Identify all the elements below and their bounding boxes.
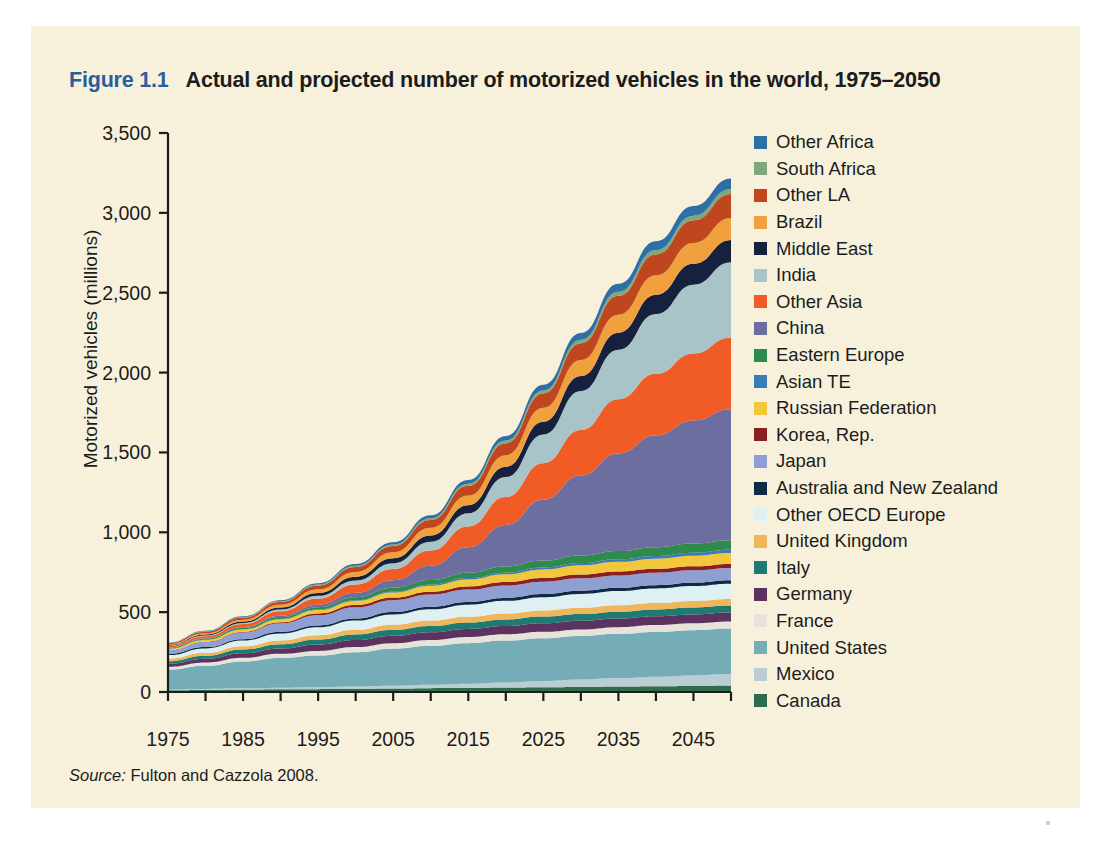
legend-item-label: Italy (776, 557, 810, 579)
figure-card: Figure 1.1Actual and projected number of… (31, 26, 1080, 808)
source-text: Fulton and Cazzola 2008. (130, 766, 318, 784)
y-tick-label: 0 (79, 681, 151, 704)
legend-item-label: Brazil (776, 211, 822, 233)
legend-color-swatch (754, 189, 767, 202)
legend-item[interactable]: Australia and New Zealand (754, 475, 1064, 502)
legend-item[interactable]: India (754, 262, 1064, 289)
legend-item[interactable]: France (754, 608, 1064, 635)
legend-item[interactable]: Canada (754, 687, 1064, 714)
legend-item-label: Mexico (776, 663, 835, 685)
x-tick-label: 2025 (503, 728, 583, 751)
legend-item[interactable]: Other LA (754, 182, 1064, 209)
legend-item[interactable]: Middle East (754, 235, 1064, 262)
legend-item-label: Germany (776, 583, 852, 605)
legend-item[interactable]: Other Africa (754, 129, 1064, 156)
legend-color-swatch (754, 668, 767, 681)
legend-color-swatch (754, 641, 767, 654)
legend-color-swatch (754, 508, 767, 521)
legend-color-swatch (754, 402, 767, 415)
legend-item-label: United Kingdom (776, 530, 908, 552)
legend-color-swatch (754, 455, 767, 468)
legend-item-label: Korea, Rep. (776, 424, 875, 446)
legend-color-swatch (754, 136, 767, 149)
source-label: Source: (69, 766, 126, 784)
legend-item[interactable]: United Kingdom (754, 528, 1064, 555)
legend-color-swatch (754, 216, 767, 229)
legend-item-label: Australia and New Zealand (776, 477, 998, 499)
legend-item-label: Canada (776, 690, 841, 712)
legend-item[interactable]: Japan (754, 448, 1064, 475)
legend-color-swatch (754, 482, 767, 495)
legend-item[interactable]: Other Asia (754, 289, 1064, 316)
legend-item-label: United States (776, 637, 887, 659)
y-axis-ticks: 05001,0001,5002,0002,5003,0003,500 (79, 26, 151, 808)
legend-color-swatch (754, 694, 767, 707)
legend-item-label: China (776, 317, 824, 339)
legend-item[interactable]: Italy (754, 555, 1064, 582)
legend-item[interactable]: United States (754, 634, 1064, 661)
y-tick-label: 1,000 (79, 521, 151, 544)
legend-item[interactable]: China (754, 315, 1064, 342)
legend-color-swatch (754, 162, 767, 175)
y-tick-label: 3,000 (79, 202, 151, 225)
chart-legend: Other AfricaSouth AfricaOther LABrazilMi… (754, 129, 1064, 714)
x-tick-label: 2045 (653, 728, 733, 751)
legend-item[interactable]: Other OECD Europe (754, 501, 1064, 528)
x-tick-label: 1985 (203, 728, 283, 751)
legend-color-swatch (754, 428, 767, 441)
legend-item-label: Other Africa (776, 131, 874, 153)
y-tick-label: 2,500 (79, 282, 151, 305)
legend-item-label: France (776, 610, 834, 632)
legend-color-swatch (754, 322, 767, 335)
x-tick-label: 1975 (128, 728, 208, 751)
y-tick-label: 500 (79, 601, 151, 624)
legend-item-label: Middle East (776, 238, 873, 260)
y-tick-label: 1,500 (79, 441, 151, 464)
paper-speck (1046, 821, 1050, 825)
legend-item-label: Other OECD Europe (776, 504, 946, 526)
legend-item-label: Asian TE (776, 371, 851, 393)
legend-item-label: Japan (776, 450, 826, 472)
legend-color-swatch (754, 614, 767, 627)
legend-color-swatch (754, 269, 767, 282)
legend-color-swatch (754, 242, 767, 255)
legend-item[interactable]: Asian TE (754, 368, 1064, 395)
legend-item-label: Russian Federation (776, 397, 936, 419)
x-tick-label: 2035 (578, 728, 658, 751)
legend-item[interactable]: Brazil (754, 209, 1064, 236)
legend-item-label: India (776, 264, 816, 286)
x-tick-label: 2005 (353, 728, 433, 751)
legend-item[interactable]: Korea, Rep. (754, 422, 1064, 449)
legend-item[interactable]: Russian Federation (754, 395, 1064, 422)
legend-item-label: Other LA (776, 184, 850, 206)
legend-item-label: South Africa (776, 158, 876, 180)
y-tick-label: 2,000 (79, 362, 151, 385)
legend-item-label: Other Asia (776, 291, 862, 313)
legend-color-swatch (754, 375, 767, 388)
x-tick-label: 1995 (278, 728, 358, 751)
legend-color-swatch (754, 561, 767, 574)
y-tick-label: 3,500 (79, 122, 151, 145)
legend-item[interactable]: Germany (754, 581, 1064, 608)
source-note: Source: Fulton and Cazzola 2008. (69, 766, 319, 785)
legend-item-label: Eastern Europe (776, 344, 905, 366)
legend-item[interactable]: Mexico (754, 661, 1064, 688)
legend-color-swatch (754, 588, 767, 601)
legend-color-swatch (754, 349, 767, 362)
legend-color-swatch (754, 295, 767, 308)
x-tick-label: 2015 (428, 728, 508, 751)
legend-item[interactable]: South Africa (754, 156, 1064, 183)
legend-color-swatch (754, 535, 767, 548)
legend-item[interactable]: Eastern Europe (754, 342, 1064, 369)
